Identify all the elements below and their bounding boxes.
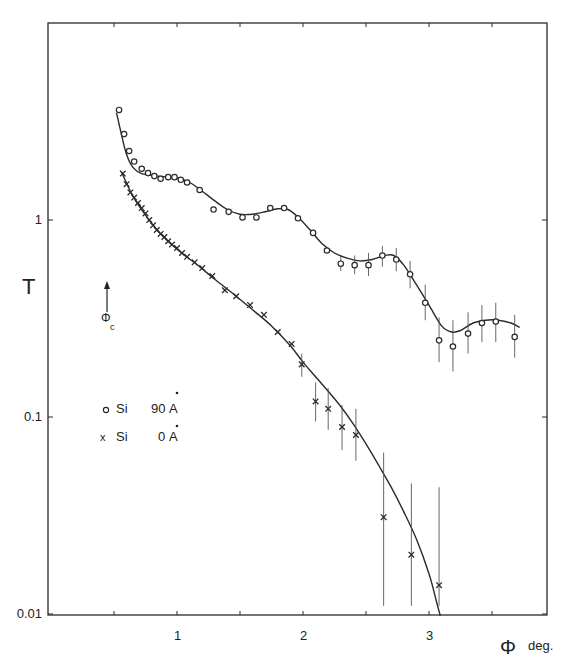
circle-marker-icon: [139, 166, 144, 171]
angstrom-ring-icon: [176, 425, 179, 428]
circle-marker-icon: [165, 174, 170, 179]
x-tick-label: 2: [300, 628, 307, 643]
angstrom-ring-icon: [176, 392, 179, 395]
circle-marker-icon: [493, 319, 498, 324]
circle-marker-icon: [465, 331, 470, 336]
legend-1-label: Si: [116, 401, 128, 416]
cross-marker-icon: [184, 254, 190, 260]
y-tick-label: 0.1: [24, 409, 42, 424]
fit-curves: [117, 113, 520, 616]
cross-marker-icon: [169, 242, 175, 248]
circle-marker-icon: [116, 107, 121, 112]
legend-1-value: 90: [151, 401, 165, 416]
circle-marker-icon: [172, 174, 177, 179]
circle-marker-icon: [126, 148, 131, 153]
legend: Si 90 A x Si 0 A: [100, 392, 178, 444]
cross-marker-icon: [192, 259, 198, 265]
circle-marker-icon: [436, 338, 441, 343]
circle-marker-icon: [394, 257, 399, 262]
y-tick-label: 1: [35, 212, 42, 227]
phi-c-subscript: c: [110, 322, 115, 332]
circle-marker-icon: [254, 215, 259, 220]
circle-marker-icon: [152, 173, 157, 178]
circle-marker-icon: [121, 131, 126, 136]
arrowhead-icon: [104, 281, 110, 289]
plot-frame: [48, 23, 547, 615]
circle-marker-icon: [145, 170, 150, 175]
chart-canvas: 12310.10.01 T Φ c Si 90 A x Si 0 A Φ de: [0, 0, 585, 668]
error-bars: [302, 246, 515, 606]
circle-marker-icon: [158, 176, 163, 181]
legend-1-unit: A: [169, 401, 178, 416]
circle-marker-icon: [380, 253, 385, 258]
x-axis-unit: deg.: [528, 638, 553, 653]
circle-marker-icon: [352, 262, 357, 267]
plot-border: [48, 23, 547, 615]
cross-marker-icon: [146, 217, 152, 223]
cross-marker-icon: [222, 287, 228, 293]
y-axis-title: T: [22, 274, 35, 299]
circle-marker-icon: [184, 180, 189, 185]
circle-marker-icon: [295, 216, 300, 221]
x-axis-symbol: Φ: [500, 636, 516, 658]
cross-marker-icon: [179, 250, 185, 256]
circle-marker-icon: [281, 205, 286, 210]
circle-marker-icon: [324, 248, 329, 253]
legend-circle-marker-icon: [103, 407, 108, 412]
cross-marker-icon: [233, 293, 239, 299]
circle-marker-icon: [197, 187, 202, 192]
legend-2-label: Si: [116, 429, 128, 444]
circle-marker-icon: [512, 334, 517, 339]
cross-marker-icon: [275, 329, 281, 335]
circle-marker-icon: [131, 159, 136, 164]
phi-c-annotation: Φ c: [101, 281, 115, 332]
y-tick-label: 0.01: [17, 606, 42, 621]
circle-marker-icon: [450, 344, 455, 349]
fit-curve: [117, 113, 520, 332]
transmission-chart: 12310.10.01 T Φ c Si 90 A x Si 0 A Φ de: [0, 0, 585, 668]
circle-marker-icon: [407, 272, 412, 277]
x-tick-label: 3: [426, 628, 433, 643]
fit-curve: [122, 172, 441, 616]
circle-marker-icon: [211, 207, 216, 212]
cross-marker-icon: [261, 312, 267, 318]
data-markers: [116, 107, 517, 588]
circle-marker-icon: [366, 262, 371, 267]
x-tick-label: 1: [174, 628, 181, 643]
circle-marker-icon: [268, 205, 273, 210]
circle-marker-icon: [226, 209, 231, 214]
circle-marker-icon: [423, 300, 428, 305]
legend-cross-marker-icon: x: [100, 431, 106, 443]
circle-marker-icon: [178, 177, 183, 182]
circle-marker-icon: [310, 230, 315, 235]
legend-2-unit: A: [169, 429, 178, 444]
legend-2-value: 0: [158, 429, 165, 444]
circle-marker-icon: [479, 320, 484, 325]
circle-marker-icon: [338, 261, 343, 266]
circle-marker-icon: [240, 215, 245, 220]
